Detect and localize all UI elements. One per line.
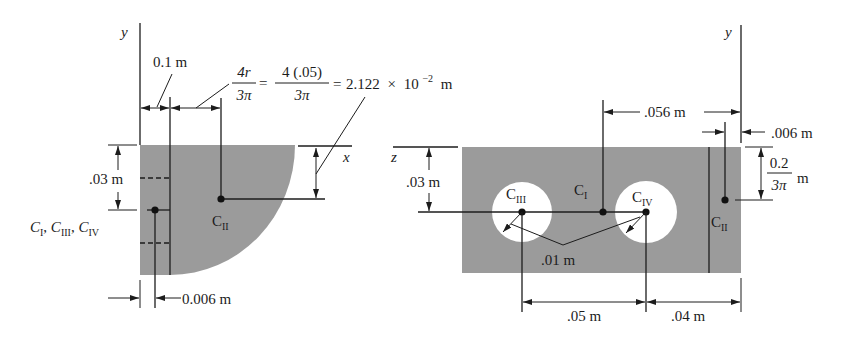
result-unit: m bbox=[441, 76, 453, 92]
y-axis-label: y bbox=[119, 24, 128, 40]
left-figure: y 0.1 m 4r 3π = 4 (.05) 3π = 2.122 × 10 … bbox=[30, 23, 453, 308]
equals-sign-2: = bbox=[333, 76, 341, 92]
frac-numerator-right: 0.2 bbox=[770, 155, 789, 171]
frac1-numerator: 4r bbox=[237, 64, 251, 80]
dim-label-radius: .01 m bbox=[541, 252, 576, 268]
frac-denominator-right: 3π bbox=[770, 177, 787, 193]
x-axis-label: x bbox=[342, 149, 350, 165]
leader-4r-3pi bbox=[196, 84, 229, 108]
frac2-numerator: 4 (.05) bbox=[282, 64, 322, 81]
equals-sign-1: = bbox=[259, 75, 267, 91]
dim-label-0.1m: 0.1 m bbox=[153, 54, 188, 70]
frac1-denominator: 3π bbox=[235, 87, 252, 103]
right-figure: y CII .006 m 0.2 3π m .056 m z .03 m bbox=[390, 24, 813, 324]
centroids-I-III-IV-label: CI, CIII, CIV bbox=[30, 219, 100, 238]
result-times: × bbox=[388, 76, 396, 92]
leader-2.122 bbox=[316, 97, 365, 174]
dim-label-0006m: 0.006 m bbox=[182, 291, 232, 307]
result-base: 10 bbox=[404, 76, 419, 92]
centroid-formula: 4r 3π = 4 (.05) 3π = 2.122 × 10 −2 m bbox=[232, 64, 453, 103]
result-exponent: −2 bbox=[422, 73, 433, 84]
centroid-strip-dot bbox=[151, 206, 158, 213]
frac-unit-right: m bbox=[797, 170, 809, 186]
dim-label-05m: .05 m bbox=[567, 308, 602, 324]
centroid-II-dot-right bbox=[721, 196, 728, 203]
z-axis-label: z bbox=[390, 149, 397, 165]
dim-label-03m-left: .03 m bbox=[89, 171, 124, 187]
dim-label-006m: .006 m bbox=[771, 125, 813, 141]
centroid-I-dot bbox=[599, 208, 606, 215]
frac2-denominator: 3π bbox=[293, 87, 310, 103]
formula-result: 2.122 × 10 −2 m bbox=[346, 69, 453, 92]
dim-label-04m: .04 m bbox=[671, 308, 706, 324]
centroid-diagram: y 0.1 m 4r 3π = 4 (.05) 3π = 2.122 × 10 … bbox=[0, 0, 855, 346]
y-axis-label-right: y bbox=[723, 24, 732, 40]
dim-label-03m-right: .03 m bbox=[406, 174, 441, 190]
result-mantissa: 2.122 bbox=[346, 76, 380, 92]
centroid-II-dot bbox=[217, 195, 224, 202]
dim-label-056m: .056 m bbox=[644, 104, 686, 120]
